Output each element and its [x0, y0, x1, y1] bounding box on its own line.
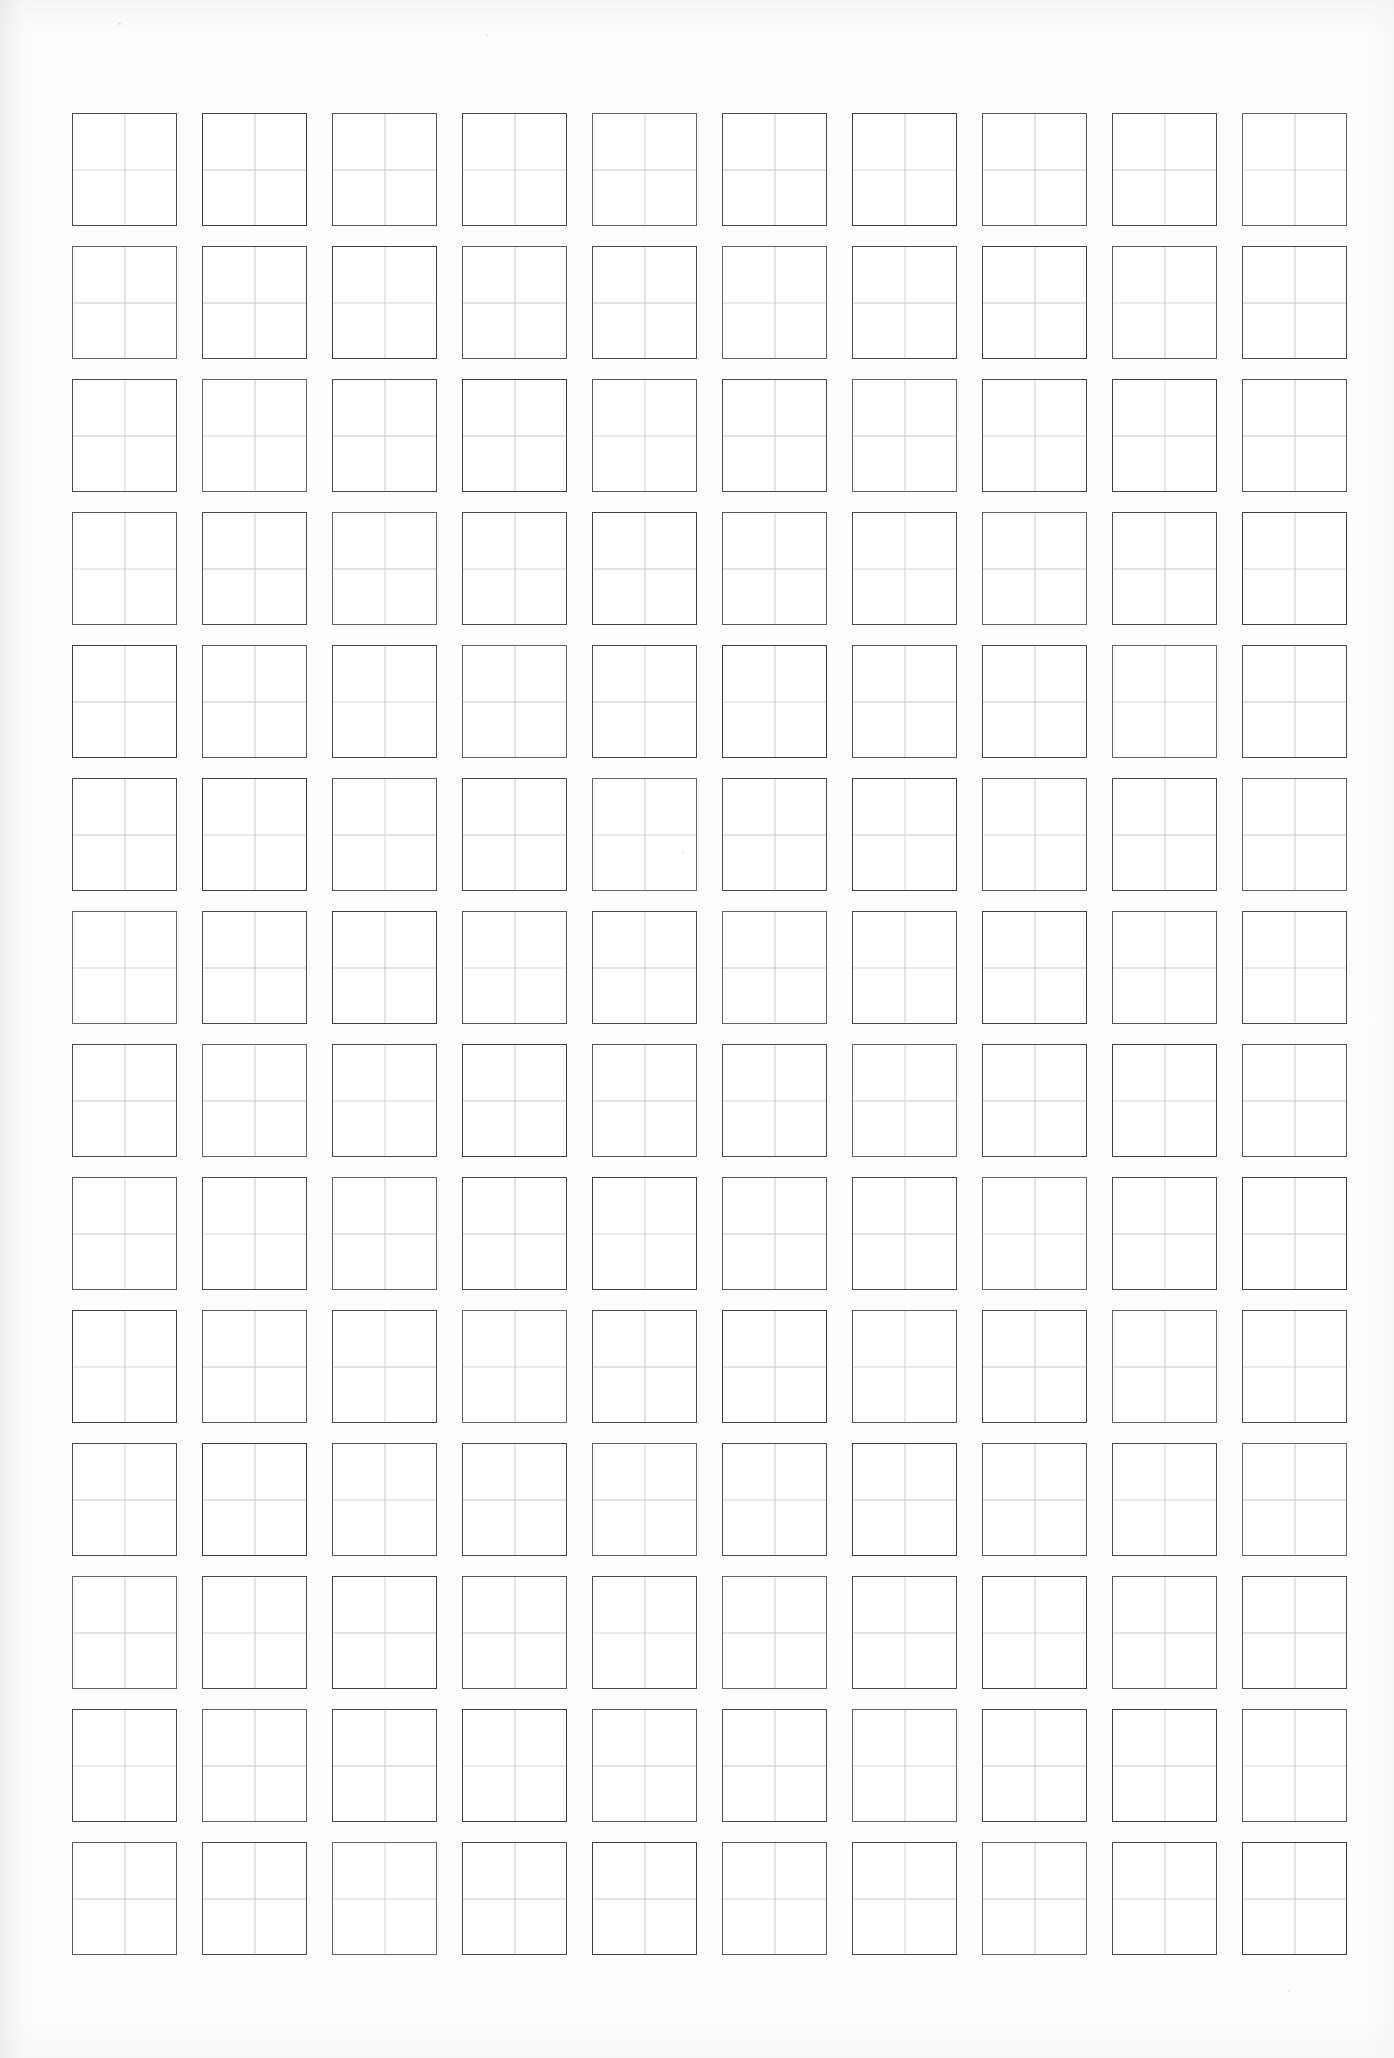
practice-cell[interactable]	[592, 911, 697, 1024]
practice-cell[interactable]	[1242, 1576, 1347, 1689]
practice-cell[interactable]	[1112, 778, 1217, 891]
practice-cell[interactable]	[202, 1709, 307, 1822]
practice-cell[interactable]	[72, 246, 177, 359]
practice-cell[interactable]	[982, 1443, 1087, 1556]
practice-cell[interactable]	[852, 512, 957, 625]
practice-cell[interactable]	[1242, 1443, 1347, 1556]
practice-cell[interactable]	[1112, 512, 1217, 625]
practice-cell[interactable]	[1242, 379, 1347, 492]
practice-cell[interactable]	[982, 512, 1087, 625]
practice-cell[interactable]	[592, 1044, 697, 1157]
practice-cell[interactable]	[592, 113, 697, 226]
practice-cell[interactable]	[1242, 113, 1347, 226]
practice-cell[interactable]	[722, 1177, 827, 1290]
practice-cell[interactable]	[722, 512, 827, 625]
practice-cell[interactable]	[332, 911, 437, 1024]
practice-cell[interactable]	[592, 1709, 697, 1822]
practice-cell[interactable]	[462, 1044, 567, 1157]
practice-cell[interactable]	[592, 1177, 697, 1290]
practice-cell[interactable]	[202, 1842, 307, 1955]
practice-cell[interactable]	[462, 379, 567, 492]
practice-cell[interactable]	[592, 778, 697, 891]
practice-cell[interactable]	[1242, 1177, 1347, 1290]
practice-cell[interactable]	[462, 778, 567, 891]
practice-cell[interactable]	[722, 1310, 827, 1423]
practice-cell[interactable]	[1242, 512, 1347, 625]
practice-cell[interactable]	[982, 246, 1087, 359]
practice-cell[interactable]	[72, 1842, 177, 1955]
practice-cell[interactable]	[852, 1576, 957, 1689]
practice-cell[interactable]	[202, 1310, 307, 1423]
practice-cell[interactable]	[982, 1044, 1087, 1157]
practice-cell[interactable]	[332, 512, 437, 625]
practice-cell[interactable]	[982, 911, 1087, 1024]
practice-cell[interactable]	[462, 1177, 567, 1290]
practice-cell[interactable]	[1112, 1310, 1217, 1423]
practice-cell[interactable]	[462, 1842, 567, 1955]
practice-cell[interactable]	[722, 1842, 827, 1955]
practice-cell[interactable]	[722, 1443, 827, 1556]
practice-cell[interactable]	[1112, 1842, 1217, 1955]
practice-cell[interactable]	[1242, 1044, 1347, 1157]
practice-cell[interactable]	[72, 512, 177, 625]
practice-cell[interactable]	[852, 1443, 957, 1556]
practice-cell[interactable]	[72, 1310, 177, 1423]
practice-cell[interactable]	[852, 379, 957, 492]
practice-cell[interactable]	[72, 1177, 177, 1290]
practice-cell[interactable]	[462, 1709, 567, 1822]
practice-cell[interactable]	[332, 1310, 437, 1423]
practice-cell[interactable]	[462, 1576, 567, 1689]
practice-cell[interactable]	[1112, 1177, 1217, 1290]
practice-cell[interactable]	[462, 246, 567, 359]
practice-cell[interactable]	[332, 778, 437, 891]
practice-cell[interactable]	[722, 1044, 827, 1157]
practice-cell[interactable]	[592, 512, 697, 625]
practice-cell[interactable]	[1242, 1709, 1347, 1822]
practice-cell[interactable]	[852, 113, 957, 226]
practice-cell[interactable]	[1242, 246, 1347, 359]
practice-cell[interactable]	[852, 1842, 957, 1955]
practice-cell[interactable]	[72, 1709, 177, 1822]
practice-cell[interactable]	[462, 113, 567, 226]
practice-cell[interactable]	[332, 379, 437, 492]
practice-cell[interactable]	[462, 1443, 567, 1556]
practice-cell[interactable]	[1112, 911, 1217, 1024]
practice-cell[interactable]	[462, 512, 567, 625]
practice-cell[interactable]	[982, 1709, 1087, 1822]
practice-cell[interactable]	[202, 1177, 307, 1290]
practice-cell[interactable]	[1242, 1842, 1347, 1955]
practice-cell[interactable]	[332, 1044, 437, 1157]
practice-cell[interactable]	[202, 1044, 307, 1157]
practice-cell[interactable]	[332, 113, 437, 226]
practice-cell[interactable]	[982, 645, 1087, 758]
practice-cell[interactable]	[592, 246, 697, 359]
practice-cell[interactable]	[72, 778, 177, 891]
practice-cell[interactable]	[852, 1310, 957, 1423]
practice-cell[interactable]	[722, 246, 827, 359]
practice-cell[interactable]	[852, 911, 957, 1024]
practice-cell[interactable]	[1242, 911, 1347, 1024]
practice-cell[interactable]	[332, 1576, 437, 1689]
practice-cell[interactable]	[1242, 778, 1347, 891]
practice-cell[interactable]	[202, 1443, 307, 1556]
practice-cell[interactable]	[592, 379, 697, 492]
practice-cell[interactable]	[1112, 113, 1217, 226]
practice-cell[interactable]	[722, 1576, 827, 1689]
practice-cell[interactable]	[852, 1177, 957, 1290]
practice-cell[interactable]	[332, 1443, 437, 1556]
practice-cell[interactable]	[1112, 246, 1217, 359]
practice-cell[interactable]	[982, 1310, 1087, 1423]
practice-cell[interactable]	[722, 911, 827, 1024]
practice-cell[interactable]	[982, 1576, 1087, 1689]
practice-cell[interactable]	[1242, 1310, 1347, 1423]
practice-cell[interactable]	[72, 1044, 177, 1157]
practice-cell[interactable]	[1112, 645, 1217, 758]
practice-cell[interactable]	[202, 778, 307, 891]
practice-cell[interactable]	[852, 1044, 957, 1157]
practice-cell[interactable]	[852, 778, 957, 891]
practice-cell[interactable]	[722, 113, 827, 226]
practice-cell[interactable]	[722, 778, 827, 891]
practice-cell[interactable]	[202, 246, 307, 359]
practice-cell[interactable]	[462, 1310, 567, 1423]
practice-cell[interactable]	[1112, 1044, 1217, 1157]
